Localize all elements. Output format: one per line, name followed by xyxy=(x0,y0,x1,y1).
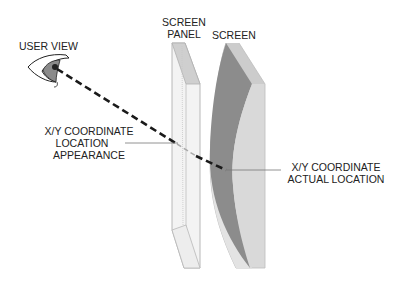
screen-panel-label-line2: PANEL xyxy=(153,28,215,40)
apparent-label-line2: LOCATION xyxy=(25,137,139,149)
eye-icon xyxy=(28,55,69,87)
actual-location-label: X/Y COORDINATE ACTUAL LOCATION xyxy=(284,161,388,185)
screen-panel-label-line1: SCREEN xyxy=(153,16,215,28)
screen-label: SCREEN xyxy=(212,29,256,41)
user-view-label: USER VIEW xyxy=(19,40,78,52)
screen-panel-label: SCREEN PANEL xyxy=(153,16,215,40)
apparent-label-line1: X/Y COORDINATE xyxy=(39,125,139,137)
apparent-label-line3: APPEARANCE xyxy=(39,149,139,161)
screen-shape xyxy=(210,43,265,268)
actual-label-line2: ACTUAL LOCATION xyxy=(284,173,388,185)
actual-label-line1: X/Y COORDINATE xyxy=(284,161,388,173)
screen-panel-shape xyxy=(172,43,200,268)
apparent-location-label: X/Y COORDINATE LOCATION APPEARANCE xyxy=(39,125,139,161)
